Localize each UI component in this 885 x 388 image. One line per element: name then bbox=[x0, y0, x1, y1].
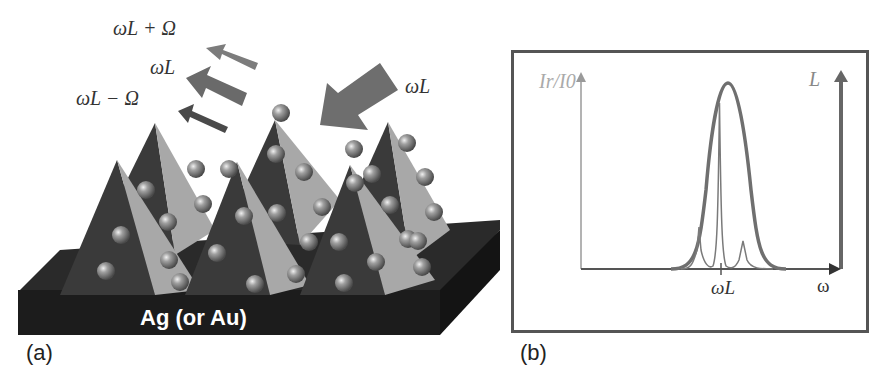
scattered-arrow-upper-icon bbox=[206, 44, 258, 70]
x-axis-label: ω bbox=[817, 275, 830, 297]
plasmon-curve bbox=[671, 83, 786, 269]
scattered-arrow-middle-icon bbox=[186, 66, 247, 106]
label-omega-l-scattered: ωL bbox=[150, 56, 175, 79]
y-right-arrow-icon bbox=[834, 70, 848, 82]
panel-a: ωL + Ω ωL ωL − Ω ωL Ag (or Au) (a) bbox=[0, 0, 505, 388]
panel-b: Ir/I0 L ωL ω bbox=[511, 50, 869, 333]
scattered-arrow-lower-icon bbox=[178, 104, 228, 133]
y-left-arrow-icon bbox=[576, 72, 586, 82]
panel-a-label: (a) bbox=[26, 340, 53, 366]
substrate-label: Ag (or Au) bbox=[140, 305, 247, 331]
sers-surface-illustration bbox=[0, 0, 505, 388]
y-left-label: Ir/I0 bbox=[539, 70, 576, 93]
x-tick-label: ωL bbox=[711, 277, 735, 299]
incident-arrow-icon bbox=[320, 63, 398, 130]
label-omega-minus: ωL − Ω bbox=[76, 87, 139, 110]
panel-b-label: (b) bbox=[520, 340, 547, 366]
label-omega-plus: ωL + Ω bbox=[113, 17, 176, 40]
label-omega-l-incident: ωL bbox=[405, 75, 430, 98]
y-right-label: L bbox=[809, 68, 820, 91]
